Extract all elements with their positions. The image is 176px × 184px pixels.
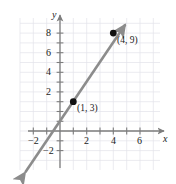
graph-canvas <box>0 0 176 184</box>
point-1-3 <box>70 98 77 105</box>
y-axis-label: y <box>52 10 56 20</box>
y-axis <box>57 15 64 168</box>
x-tick-label-neg2: −2 <box>28 136 39 146</box>
y-tick-label-6: 6 <box>46 48 51 58</box>
label-point-4-9: (4, 9) <box>117 36 138 46</box>
x-axis-label: x <box>163 134 167 144</box>
y-tick-label-8: 8 <box>46 28 51 38</box>
point-4-9 <box>110 30 117 37</box>
x-axis <box>28 128 164 135</box>
y-tick-label-4: 4 <box>46 67 51 77</box>
data-line <box>25 25 125 173</box>
y-tick-label-2: 2 <box>46 87 51 97</box>
x-tick-label-6: 6 <box>137 136 142 146</box>
label-point-1-3: (1, 3) <box>77 104 98 114</box>
x-tick-label-2: 2 <box>84 136 89 146</box>
y-tick-label-neg2: −2 <box>43 146 54 156</box>
x-tick-label-4: 4 <box>111 136 116 146</box>
coordinate-plane-figure: x y −2 2 4 6 8 6 4 2 −2 (1, 3) (4, 9) <box>0 0 176 184</box>
